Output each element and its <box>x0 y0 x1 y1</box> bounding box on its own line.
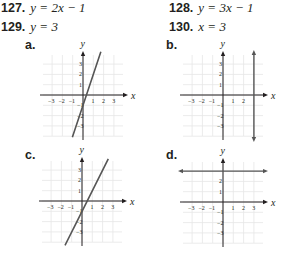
x-tick-label: −2 <box>57 204 63 210</box>
x-axis-label: x <box>129 196 135 207</box>
x-tick-label: −3 <box>188 98 194 104</box>
x-tick-label: 2 <box>242 205 245 211</box>
x-axis-label: x <box>270 90 276 101</box>
graph-label-c: c. <box>25 148 35 162</box>
coordinate-plane: xy−3−2−112321−1−2−3 <box>180 152 280 252</box>
y-tick-label: 2 <box>219 178 222 184</box>
x-tick-label: −1 <box>209 205 215 211</box>
x-axis-label: x <box>270 197 276 208</box>
y-axis-label: y <box>220 145 226 156</box>
x-tick-label: 3 <box>112 98 115 104</box>
y-axis-arrow-icon <box>221 51 225 56</box>
y-tick-label: 3 <box>79 61 82 67</box>
coordinate-plane: xy−3−2−1123321−1−2−3 <box>40 45 140 145</box>
y-tick-label: −3 <box>77 123 83 129</box>
x-tick-label: −1 <box>69 98 75 104</box>
y-tick-label: −3 <box>76 229 82 235</box>
x-tick-label: −1 <box>68 204 74 210</box>
y-tick-label: −2 <box>217 220 223 226</box>
y-tick-label: 2 <box>78 177 81 183</box>
coordinate-plane: xy−3−2−112321−1−2−3 <box>180 45 280 145</box>
y-tick-label: 3 <box>78 167 81 173</box>
problem-number: 127. <box>1 1 25 15</box>
x-tick-label: 2 <box>242 98 245 104</box>
y-axis-label: y <box>220 38 226 49</box>
x-tick-label: 3 <box>252 205 255 211</box>
problem-127: 127.y = 2x − 1 <box>1 1 85 15</box>
y-axis-label: y <box>79 144 85 155</box>
graph-b: xy−3−2−112321−1−2−3 <box>180 45 280 145</box>
y-tick-label: −1 <box>217 209 223 215</box>
x-tick-label: 3 <box>111 204 114 210</box>
y-axis-arrow-icon <box>221 158 225 163</box>
y-tick-label: 1 <box>79 82 82 88</box>
y-axis-arrow-icon <box>81 51 85 56</box>
problem-equation: y = 3 <box>30 19 58 34</box>
y-axis-label: y <box>80 38 86 49</box>
coordinate-plane: xy−3−2−1123321−1−2−3 <box>39 151 139 251</box>
problem-130: 130.x = 3 <box>169 20 226 34</box>
x-axis-arrow-icon <box>263 93 268 97</box>
line-arrow-up-icon <box>252 50 256 55</box>
x-tick-label: −3 <box>48 98 54 104</box>
graph-label-d: d. <box>166 148 177 162</box>
y-tick-label: 1 <box>78 188 81 194</box>
line-arrow-down-icon <box>252 137 256 142</box>
y-tick-label: 3 <box>219 61 222 67</box>
x-tick-label: 1 <box>92 98 95 104</box>
y-tick-label: −3 <box>217 230 223 236</box>
x-tick-label: 2 <box>101 204 104 210</box>
plotted-line <box>72 52 100 137</box>
problem-128: 128.y = 3x − 1 <box>169 1 253 15</box>
y-tick-label: 1 <box>219 82 222 88</box>
x-axis-arrow-icon <box>263 200 268 204</box>
x-tick-label: 2 <box>102 98 105 104</box>
problem-number: 128. <box>169 1 193 15</box>
x-tick-label: 1 <box>91 204 94 210</box>
line-arrow-right-icon <box>263 169 268 173</box>
problem-equation: y = 2x − 1 <box>30 0 85 15</box>
x-tick-label: −2 <box>198 205 204 211</box>
x-tick-label: −1 <box>209 98 215 104</box>
problem-equation: y = 3x − 1 <box>198 0 253 15</box>
graph-label-b: b. <box>166 38 177 52</box>
y-tick-label: 2 <box>219 71 222 77</box>
graph-c: xy−3−2−1123321−1−2−3 <box>39 151 139 251</box>
x-tick-label: −2 <box>198 98 204 104</box>
y-tick-label: 1 <box>219 189 222 195</box>
x-tick-label: −3 <box>47 204 53 210</box>
y-axis-arrow-icon <box>80 157 84 162</box>
y-tick-label: −3 <box>217 123 223 129</box>
graph-label-a: a. <box>25 38 35 52</box>
problem-equation: x = 3 <box>198 19 226 34</box>
y-tick-label: 2 <box>79 71 82 77</box>
y-tick-label: −1 <box>217 102 223 108</box>
problem-number: 129. <box>1 20 25 34</box>
x-tick-label: −3 <box>188 205 194 211</box>
y-tick-label: −2 <box>217 113 223 119</box>
x-tick-label: 1 <box>232 98 235 104</box>
problem-number: 130. <box>169 20 193 34</box>
graph-a: xy−3−2−1123321−1−2−3 <box>40 45 140 145</box>
x-axis-arrow-icon <box>123 93 128 97</box>
x-axis-label: x <box>130 90 136 101</box>
line-arrow-left-icon <box>178 169 183 173</box>
graph-d: xy−3−2−112321−1−2−3 <box>180 152 280 252</box>
x-tick-label: 1 <box>232 205 235 211</box>
problem-129: 129.y = 3 <box>1 20 58 34</box>
x-tick-label: −2 <box>58 98 64 104</box>
x-axis-arrow-icon <box>122 199 127 203</box>
